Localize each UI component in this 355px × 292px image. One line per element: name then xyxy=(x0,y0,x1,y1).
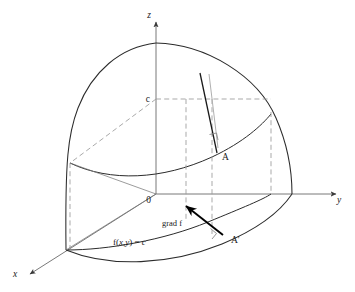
level-curve-equation: f(x,y) = c xyxy=(113,237,146,247)
surface-edge-left xyxy=(66,43,156,250)
labels-group: z y x 0 c A A' grad f f(x,y) = c xyxy=(12,10,342,279)
left-contour-to-origin-line xyxy=(70,163,156,194)
eq-c: c xyxy=(142,237,146,247)
contour-on-surface xyxy=(70,114,271,176)
gradient-vector-arrow xyxy=(186,206,223,235)
surface-edge-right xyxy=(156,43,292,194)
axes-group xyxy=(30,22,336,274)
figure-container: z y x 0 c A A' grad f f(x,y) = c xyxy=(0,0,355,292)
tangent-A-group xyxy=(200,73,218,153)
gradient-label: grad f xyxy=(162,218,182,228)
eq-suffix: ) = xyxy=(129,237,142,247)
origin-label: 0 xyxy=(146,195,151,205)
gradient-level-curve-diagram: z y x 0 c A A' grad f f(x,y) = c xyxy=(0,0,355,292)
gradient-group xyxy=(186,206,223,239)
point-A-label: A xyxy=(222,152,229,162)
level-value-label: c xyxy=(146,94,150,104)
x-axis-label: x xyxy=(12,269,18,279)
y-axis-label: y xyxy=(336,195,342,205)
level-c-depth-dashed xyxy=(70,99,156,163)
point-A-prime-label: A' xyxy=(231,235,240,245)
level-curve-group xyxy=(66,163,271,250)
z-axis-label: z xyxy=(146,10,151,20)
tangent-line-A xyxy=(200,73,217,153)
